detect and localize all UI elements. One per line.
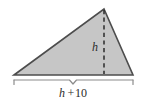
- figure-container: h h+10: [0, 0, 144, 102]
- base-label-variable: h: [59, 86, 65, 100]
- base-label-group: h+10: [59, 86, 87, 100]
- base-label-operator: +: [68, 86, 75, 100]
- triangle-shape: [14, 9, 133, 75]
- base-label-constant: 10: [75, 86, 87, 100]
- geometry-figure: h h+10: [0, 0, 144, 102]
- height-label: h: [92, 40, 98, 54]
- brace-span-with-notch: [14, 80, 133, 84]
- base-measurement-brace: [14, 80, 133, 85]
